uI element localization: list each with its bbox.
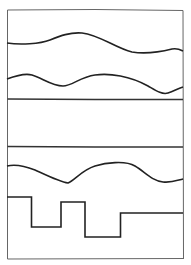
frame-bottom <box>8 259 184 260</box>
square-wave <box>7 197 183 237</box>
smooth-wave-1 <box>7 33 183 53</box>
frame <box>8 10 184 260</box>
frame-right <box>183 11 184 260</box>
waveform-sketch <box>0 0 191 265</box>
smooth-wave-3 <box>7 163 183 183</box>
divider-2 <box>8 147 184 148</box>
divider-1 <box>8 99 184 100</box>
dividers <box>8 99 184 147</box>
smooth-wave-2 <box>7 74 183 93</box>
frame-top <box>8 10 184 11</box>
